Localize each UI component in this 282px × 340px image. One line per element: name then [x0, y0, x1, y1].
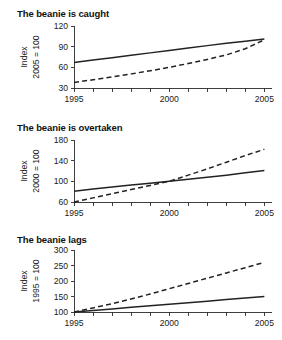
- x-tick-label: 1995: [64, 208, 83, 218]
- axis-lines: [74, 140, 272, 202]
- x-tick-label: 2000: [160, 94, 179, 104]
- y-axis-label-line1: Index: [19, 160, 29, 182]
- plot-area-overtaken: 60100140180199520002005Index2000 = 100: [0, 122, 282, 230]
- chart-panel-overtaken: The beanie is overtaken 6010014018019952…: [0, 122, 282, 230]
- y-tick-label: 120: [54, 21, 69, 31]
- y-tick-label: 200: [54, 276, 69, 286]
- x-tick-label: 2005: [255, 208, 274, 218]
- plot-area-lags: 100150200250300199520002005Index1995 = 1…: [0, 234, 282, 340]
- series-line-solid: [74, 170, 264, 191]
- plot-area-caught: 306090120199520002005Index2005 = 100: [0, 8, 282, 116]
- x-tick-label: 2000: [160, 208, 179, 218]
- y-tick-label: 100: [54, 176, 69, 186]
- y-tick-label: 150: [54, 292, 69, 302]
- y-tick-label: 140: [54, 156, 69, 166]
- y-axis-label-line2: 2005 = 100: [31, 35, 41, 78]
- chart-panel-lags: The beanie lags 100150200250300199520002…: [0, 234, 282, 340]
- axis-lines: [74, 26, 272, 88]
- y-tick-label: 300: [54, 245, 69, 255]
- y-axis-label: Index1995 = 100: [19, 259, 41, 302]
- x-tick-label: 2005: [255, 94, 274, 104]
- y-axis-label-line2: 2000 = 100: [31, 149, 41, 192]
- y-tick-label: 100: [54, 307, 69, 317]
- chart-panel-caught: The beanie is caught 3060901201995200020…: [0, 8, 282, 116]
- series-line-solid: [74, 39, 264, 62]
- y-axis-label-line1: Index: [19, 270, 29, 292]
- y-tick-label: 60: [58, 62, 68, 72]
- multi-panel-chart-figure: The beanie is caught 3060901201995200020…: [0, 0, 282, 340]
- y-axis-label-line1: Index: [19, 46, 29, 68]
- y-axis-label: Index2000 = 100: [19, 149, 41, 192]
- y-tick-label: 60: [58, 197, 68, 207]
- y-tick-label: 90: [58, 42, 68, 52]
- y-axis-label-line2: 1995 = 100: [31, 259, 41, 302]
- y-tick-label: 250: [54, 261, 69, 271]
- axis-lines: [74, 250, 272, 312]
- x-tick-label: 2005: [255, 318, 274, 328]
- y-tick-label: 180: [54, 135, 69, 145]
- x-tick-label: 1995: [64, 318, 83, 328]
- x-tick-label: 2000: [160, 318, 179, 328]
- y-axis-label: Index2005 = 100: [19, 35, 41, 78]
- series-line-dashed: [74, 40, 264, 83]
- series-line-solid: [74, 297, 264, 313]
- series-line-dashed: [74, 149, 264, 202]
- x-tick-label: 1995: [64, 94, 83, 104]
- y-tick-label: 30: [58, 83, 68, 93]
